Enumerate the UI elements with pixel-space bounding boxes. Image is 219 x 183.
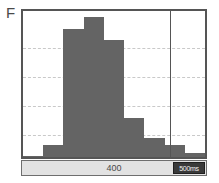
histogram-bar xyxy=(185,153,205,157)
histogram-bar xyxy=(43,145,63,157)
histogram-bar xyxy=(63,29,83,157)
histogram-bar xyxy=(165,145,185,157)
plot-area xyxy=(23,11,205,157)
figure-panel-f: F 400 500ms xyxy=(0,0,219,183)
histogram-bar xyxy=(84,17,104,157)
histogram-bar xyxy=(23,156,43,157)
cursor-line xyxy=(170,11,171,157)
time-scale-badge-label: 500ms xyxy=(179,165,199,172)
histogram-bar xyxy=(124,118,144,157)
plot-frame xyxy=(21,9,207,159)
panel-letter: F xyxy=(6,5,15,20)
histogram-bar xyxy=(144,138,164,157)
time-scale-badge: 500ms xyxy=(173,162,205,174)
histogram-bar xyxy=(104,40,124,157)
axis-scale-strip: 400 500ms xyxy=(21,160,207,176)
